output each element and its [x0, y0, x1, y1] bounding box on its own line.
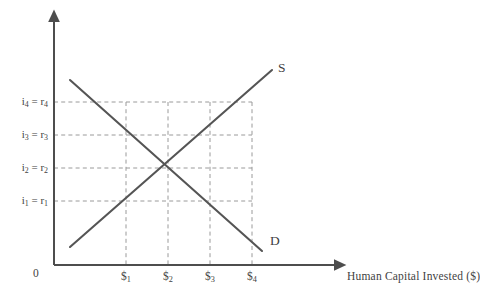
x-tick-label-s4: $4	[237, 271, 267, 284]
axes	[54, 20, 336, 265]
x-tick-label-s1: $1	[111, 271, 141, 284]
horizontal-gridlines	[54, 102, 252, 201]
demand-curve-label: D	[270, 234, 280, 248]
y-tick-label-i3: i3 = r3	[8, 129, 48, 142]
y-tick-label-i4: i4 = r4	[8, 96, 48, 109]
y-tick-label-i2: i2 = r2	[8, 162, 48, 175]
origin-label: 0	[33, 268, 39, 280]
supply-curve	[70, 70, 272, 247]
supply-curve-label: S	[278, 61, 286, 75]
x-axis-title: Human Capital Invested ($)	[347, 271, 480, 283]
x-tick-label-s3: $3	[195, 271, 225, 284]
y-tick-label-i1: i1 = r1	[8, 195, 48, 208]
demand-curve	[70, 80, 262, 251]
x-tick-label-s2: $2	[153, 271, 183, 284]
vertical-gridlines	[126, 102, 252, 265]
